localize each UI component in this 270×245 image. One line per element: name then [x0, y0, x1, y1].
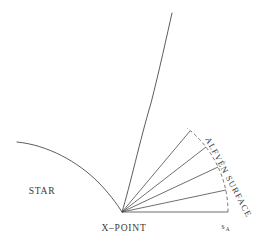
- xpoint-label: X–POINT: [101, 223, 146, 233]
- alfven-surface-label: ALFVÉN SURFACE: [203, 135, 254, 219]
- star-region: [17, 142, 122, 212]
- field-line-ray-3: [122, 147, 206, 212]
- alfven-radius-symbol-label: sA: [221, 222, 230, 232]
- label-group: STAR X–POINT ALFVÉN SURFACE sA: [29, 135, 254, 233]
- diagram-canvas: STAR X–POINT ALFVÉN SURFACE sA: [0, 0, 270, 245]
- sa-subscript: A: [226, 226, 231, 232]
- field-line-ray-2: [122, 167, 218, 212]
- star-label: STAR: [29, 186, 56, 196]
- diagram-figure: STAR X–POINT ALFVÉN SURFACE sA: [0, 0, 270, 245]
- star-boundary-curve: [17, 142, 122, 212]
